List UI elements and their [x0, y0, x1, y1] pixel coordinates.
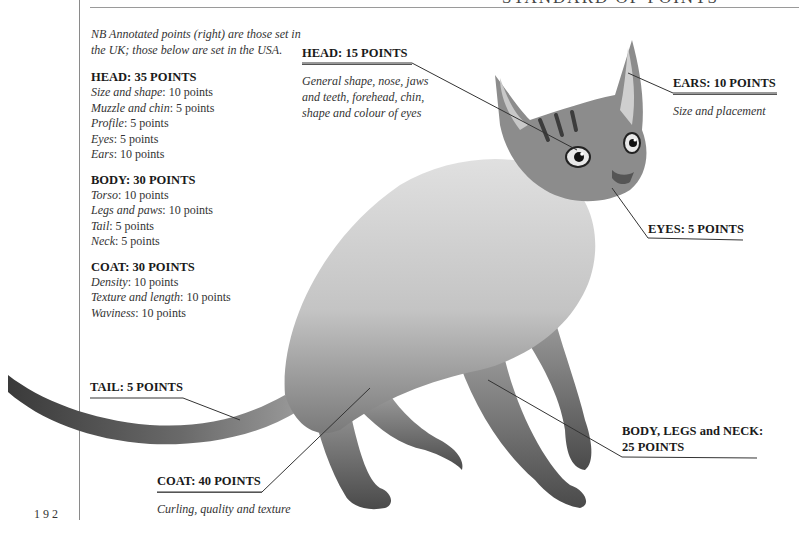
callout-description: General shape, nose, jaws and teeth, for…	[302, 73, 442, 121]
callout-title: HEAD: 15 POINTS	[302, 45, 442, 61]
callout-underline	[673, 94, 777, 95]
callout-title: EYES: 5 POINTS	[648, 221, 744, 237]
list-item: Tail: 5 points	[91, 219, 301, 235]
callout-body-legs-neck: BODY, LEGS and NECK: 25 POINTS	[622, 423, 763, 455]
list-item: Density: 10 points	[91, 275, 301, 291]
callout-title-line2: 25 POINTS	[622, 439, 763, 455]
list-item: Muzzle and chin: 5 points	[91, 101, 301, 117]
intro-note: NB Annotated points (right) are those se…	[91, 26, 301, 58]
list-item: Texture and length: 10 points	[91, 290, 301, 306]
section-title: HEAD: 35 POINTS	[91, 70, 301, 85]
callout-tail: TAIL: 5 POINTS	[90, 379, 183, 395]
list-item: Ears: 10 points	[91, 147, 301, 163]
list-item: Waviness: 10 points	[91, 306, 301, 322]
us-head-section: HEAD: 35 POINTS Size and shape: 10 point…	[91, 70, 301, 163]
callout-underline	[302, 64, 412, 65]
list-item: Legs and paws: 10 points	[91, 203, 301, 219]
callout-description: Curling, quality and texture	[157, 501, 307, 517]
callout-title-line1: BODY, LEGS and NECK:	[622, 423, 763, 439]
callout-underline	[157, 492, 262, 493]
list-item: Neck: 5 points	[91, 234, 301, 250]
callout-head: HEAD: 15 POINTS General shape, nose, jaw…	[302, 45, 442, 121]
callout-eyes: EYES: 5 POINTS	[648, 221, 744, 237]
list-item: Size and shape: 10 points	[91, 85, 301, 101]
callout-ears: EARS: 10 POINTS Size and placement	[673, 75, 783, 119]
section-title: COAT: 30 POINTS	[91, 260, 301, 275]
us-coat-section: COAT: 30 POINTS Density: 10 points Textu…	[91, 260, 301, 322]
us-body-section: BODY: 30 POINTS Torso: 10 points Legs an…	[91, 173, 301, 250]
callout-title: COAT: 40 POINTS	[157, 473, 307, 489]
list-item: Torso: 10 points	[91, 188, 301, 204]
callout-description: Size and placement	[673, 103, 783, 119]
section-title: BODY: 30 POINTS	[91, 173, 301, 188]
callout-title: EARS: 10 POINTS	[673, 75, 783, 91]
callout-coat: COAT: 40 POINTS Curling, quality and tex…	[157, 473, 307, 517]
callout-title: TAIL: 5 POINTS	[90, 379, 183, 395]
list-item: Profile: 5 points	[91, 116, 301, 132]
us-standard-panel: NB Annotated points (right) are those se…	[91, 26, 301, 331]
list-item: Eyes: 5 points	[91, 132, 301, 148]
